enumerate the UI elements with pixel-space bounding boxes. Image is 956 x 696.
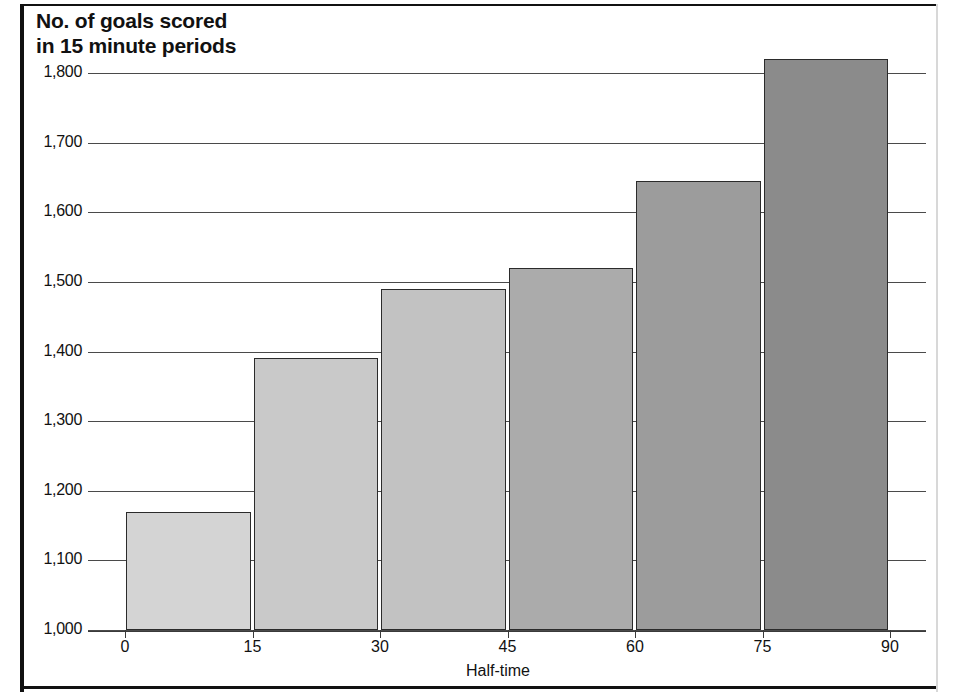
x-axis-tick [635,630,636,638]
y-axis-tick-label: 1,200 [28,481,82,499]
y-axis-tick-label: 1,300 [28,411,82,429]
y-axis-tick-label: 1,500 [28,272,82,290]
x-axis-tick [253,630,254,638]
x-axis-tick-label: 30 [350,638,410,656]
bar [381,289,506,630]
plot-area: Half-time 1,8001,7001,6001,5001,4001,300… [0,0,956,696]
x-axis-tick-label: 90 [860,638,920,656]
y-axis-tick-label: 1,700 [28,133,82,151]
x-axis-tick-label: 0 [95,638,155,656]
x-axis-tick [890,630,891,638]
y-axis-tick-label: 1,100 [28,550,82,568]
x-axis-tick-label: 75 [733,638,793,656]
y-axis-tick-label: 1,800 [28,63,82,81]
bar [636,181,761,630]
bar [126,512,251,630]
x-axis-tick-label: 60 [605,638,665,656]
y-axis-tick-label: 1,600 [28,202,82,220]
x-axis-title: Half-time [0,662,956,680]
x-axis-tick [763,630,764,638]
x-axis-tick [380,630,381,638]
y-axis-tick-label: 1,000 [28,620,82,638]
y-axis-tick-label: 1,400 [28,342,82,360]
x-axis-tick-label: 15 [223,638,283,656]
x-axis-tick [125,630,126,638]
chart-figure: No. of goals scored in 15 minute periods… [0,0,956,696]
bar [254,358,379,630]
bar [509,268,634,630]
x-axis-tick [508,630,509,638]
bar [764,59,889,630]
x-axis-tick-label: 45 [478,638,538,656]
